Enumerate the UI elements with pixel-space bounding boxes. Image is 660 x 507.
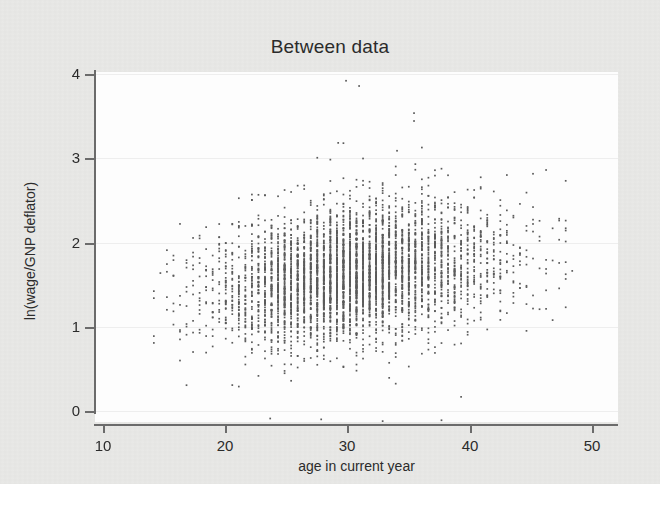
page-title: Between data <box>0 36 660 58</box>
scatter-canvas <box>95 72 618 422</box>
x-axis-line <box>94 424 618 426</box>
y-tick-mark-1 <box>85 327 94 329</box>
y-axis-title: ln(wage/GNP deflator) <box>22 151 38 351</box>
x-tick-label-30: 30 <box>327 437 367 454</box>
scatter-points-layer <box>95 72 618 422</box>
y-tick-mark-0 <box>85 411 94 413</box>
y-tick-mark-2 <box>85 243 94 245</box>
x-tick-mark-20 <box>225 424 227 433</box>
x-tick-mark-10 <box>103 424 105 433</box>
x-tick-mark-50 <box>592 424 594 433</box>
figure-page: Between data 4 3 2 1 0 10 20 30 40 50 ln… <box>0 0 660 507</box>
x-tick-label-40: 40 <box>450 437 490 454</box>
y-tick-label-4: 4 <box>58 65 80 82</box>
y-tick-label-1: 1 <box>58 318 80 335</box>
x-tick-mark-40 <box>470 424 472 433</box>
y-axis-line <box>94 70 96 414</box>
x-tick-label-10: 10 <box>83 437 123 454</box>
y-tick-mark-4 <box>85 74 94 76</box>
x-axis-title: age in current year <box>95 458 618 474</box>
x-tick-mark-30 <box>347 424 349 433</box>
y-tick-label-3: 3 <box>58 149 80 166</box>
x-tick-label-20: 20 <box>205 437 245 454</box>
y-tick-label-0: 0 <box>58 402 80 419</box>
y-tick-mark-3 <box>85 158 94 160</box>
x-tick-label-50: 50 <box>572 437 612 454</box>
y-tick-label-2: 2 <box>58 234 80 251</box>
